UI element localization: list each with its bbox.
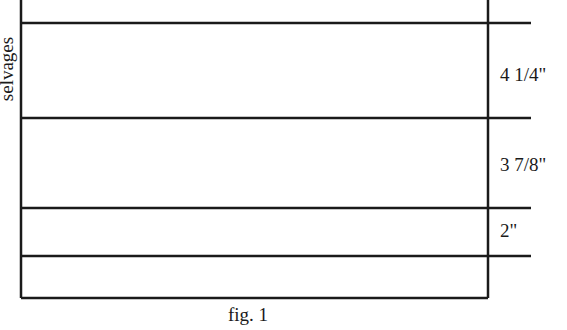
figure-caption: fig. 1	[228, 304, 268, 326]
measurement-label-1: 4 1/4"	[500, 64, 546, 86]
measurement-label-3: 2"	[500, 220, 517, 242]
measurement-label-2: 3 7/8"	[500, 154, 546, 176]
fabric-cutting-diagram	[0, 0, 567, 330]
selvages-label: selvages	[0, 34, 18, 104]
